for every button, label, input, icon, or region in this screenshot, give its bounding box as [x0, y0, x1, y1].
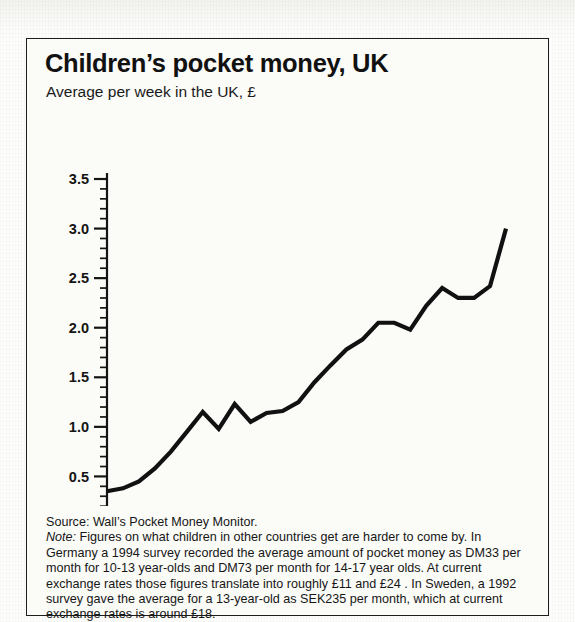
footnotes: Source: Wall’s Pocket Money Monitor. Not… — [46, 515, 533, 622]
note-text: Figures on what children in other countr… — [46, 530, 521, 621]
svg-text:1.5: 1.5 — [69, 369, 89, 385]
y-axis-tick-labels: 0.00.51.01.52.02.53.03.5 — [69, 171, 89, 506]
scanned-page: Children’s pocket money, UK Average per … — [0, 0, 575, 622]
page-top-shading — [0, 0, 575, 36]
chart-figure: Children’s pocket money, UK Average per … — [26, 38, 549, 616]
svg-text:1.0: 1.0 — [69, 419, 89, 435]
pocket-money-series-line — [107, 229, 506, 492]
line-chart: 0.00.51.01.52.02.53.03.5 197519801985199… — [27, 101, 550, 506]
chart-subtitle: Average per week in the UK, £ — [46, 83, 256, 101]
source-line: Source: Wall’s Pocket Money Monitor. — [46, 515, 533, 530]
plot-area: 0.00.51.01.52.02.53.03.5 197519801985199… — [27, 101, 550, 506]
svg-text:0.5: 0.5 — [69, 469, 89, 485]
svg-text:3.5: 3.5 — [69, 171, 89, 187]
chart-title: Children’s pocket money, UK — [45, 49, 388, 78]
svg-text:3.0: 3.0 — [69, 221, 89, 237]
svg-text:2.0: 2.0 — [69, 320, 89, 336]
note-line: Note: Figures on what children in other … — [46, 530, 533, 622]
note-label: Note: — [46, 530, 76, 544]
svg-text:2.5: 2.5 — [69, 270, 89, 286]
